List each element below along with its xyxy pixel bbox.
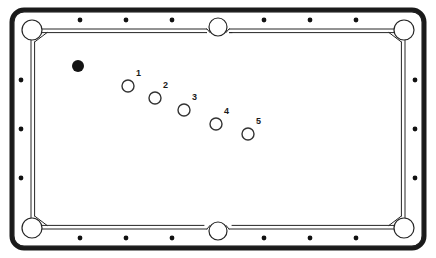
diamond-top-6 [354, 18, 359, 23]
ball-1-number-label: 1 [136, 68, 141, 78]
diamond-bottom-3 [170, 236, 175, 241]
diamond-right-3 [413, 176, 418, 181]
diamond-top-2 [124, 18, 129, 23]
pocket-top-left[interactable] [22, 20, 42, 40]
pocket-top-middle[interactable] [209, 18, 227, 36]
ball-2[interactable] [149, 92, 161, 104]
billiard-table-diagram: 12345 [0, 0, 436, 258]
ball-5-number-label: 5 [256, 116, 261, 126]
cue-ball[interactable] [72, 60, 84, 72]
ball-5[interactable] [242, 128, 254, 140]
diamond-right-1 [413, 78, 418, 83]
diamond-bottom-6 [354, 236, 359, 241]
diamond-left-3 [19, 176, 24, 181]
pocket-top-right[interactable] [394, 20, 414, 40]
ball-3[interactable] [178, 104, 190, 116]
diamond-top-3 [170, 18, 175, 23]
diamond-bottom-1 [78, 236, 83, 241]
ball-4-number-label: 4 [224, 106, 229, 116]
ball-1[interactable] [122, 80, 134, 92]
diamond-top-1 [78, 18, 83, 23]
diamond-bottom-2 [124, 236, 129, 241]
ball-3-number-label: 3 [192, 92, 197, 102]
ball-4[interactable] [210, 118, 222, 130]
diamond-bottom-4 [262, 236, 267, 241]
diamond-left-1 [19, 78, 24, 83]
diamond-top-4 [262, 18, 267, 23]
ball-2-number-label: 2 [163, 80, 168, 90]
diamond-left-2 [19, 127, 24, 132]
diamond-bottom-5 [308, 236, 313, 241]
diamond-right-2 [413, 127, 418, 132]
pocket-bottom-right[interactable] [394, 218, 414, 238]
diamond-top-5 [308, 18, 313, 23]
pocket-bottom-middle[interactable] [209, 222, 227, 240]
table-illustration: 12345 [0, 0, 436, 258]
pocket-bottom-left[interactable] [22, 218, 42, 238]
